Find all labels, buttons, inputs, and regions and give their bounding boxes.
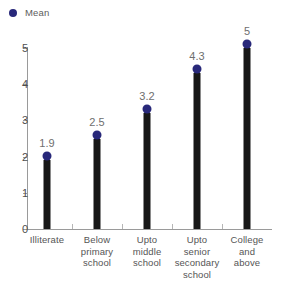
x-axis-minor-tick — [122, 224, 123, 229]
data-value-label: 3.2 — [139, 91, 154, 102]
data-value-label: 2.5 — [89, 117, 104, 128]
category-label-line: above — [216, 257, 278, 269]
data-point-marker — [43, 152, 52, 161]
x-axis-minor-tick — [172, 224, 173, 229]
data-point-marker — [143, 105, 152, 114]
x-axis-line — [27, 229, 272, 230]
bar — [144, 113, 151, 229]
y-axis-tick-label: 5 — [10, 43, 28, 54]
data-point-marker — [243, 40, 252, 49]
data-point-marker — [93, 130, 102, 139]
y-axis-tick-label: 3 — [10, 115, 28, 126]
x-axis-minor-tick — [222, 224, 223, 229]
data-value-label: 1.9 — [39, 138, 54, 149]
bar — [44, 160, 51, 229]
y-axis-tick-label: 0 — [10, 224, 28, 235]
data-value-label: 4.3 — [189, 51, 204, 62]
category-label-line: school — [166, 269, 228, 281]
y-axis-tick-label: 2 — [10, 151, 28, 162]
category-label-line: and — [216, 246, 278, 258]
x-axis-category-label: Collegeandabove — [216, 234, 278, 269]
bar — [244, 48, 251, 229]
bar — [194, 73, 201, 229]
y-axis-tick-label: 1 — [10, 187, 28, 198]
data-value-label: 5 — [244, 26, 250, 37]
data-point-marker — [193, 65, 202, 74]
x-axis-minor-tick — [72, 224, 73, 229]
category-label-line: College — [216, 234, 278, 246]
bar — [94, 139, 101, 230]
y-axis-line — [27, 47, 28, 230]
y-axis-tick-label: 4 — [10, 79, 28, 90]
plot-area: 012345 1.92.53.24.35 IlliterateBelowprim… — [0, 0, 281, 288]
mean-by-education-chart: Mean 012345 1.92.53.24.35 IlliterateBelo… — [0, 0, 281, 288]
